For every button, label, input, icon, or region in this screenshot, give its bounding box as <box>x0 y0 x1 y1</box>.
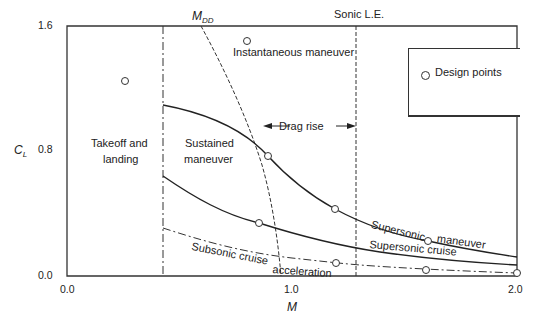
drag-rise-label: Drag rise <box>279 120 324 132</box>
mdd-label: MDD <box>192 9 214 25</box>
design-point-cruise <box>256 220 263 227</box>
mdd-curve <box>201 26 281 276</box>
y-tick-1.6: 1.6 <box>38 19 53 31</box>
design-point-sustained-1 <box>265 153 272 160</box>
sonic-le-label: Sonic L.E. <box>334 8 384 20</box>
instantaneous-maneuver-label: Instantaneous maneuver <box>233 46 354 58</box>
legend: Design points <box>408 48 520 117</box>
drag-rise-right-arrow-icon <box>347 123 356 129</box>
x-axis-title: M <box>287 300 297 314</box>
x-tick-1.0: 1.0 <box>284 283 299 295</box>
x-tick-2.0: 2.0 <box>508 283 523 295</box>
y-tick-0.0: 0.0 <box>38 269 53 281</box>
y-tick-0.8: 0.8 <box>38 143 53 155</box>
x-tick-0.0: 0.0 <box>60 283 75 295</box>
design-point-takeoff <box>122 78 129 85</box>
legend-design-points: Design points <box>435 66 502 78</box>
drag-rise-left-arrow-icon <box>263 123 272 129</box>
takeoff-label-2: landing <box>103 153 138 165</box>
design-point-accel-1 <box>333 260 340 267</box>
design-point-accel-2 <box>423 267 430 274</box>
design-point-marker-icon <box>421 71 430 80</box>
maneuver-curve <box>163 105 517 257</box>
takeoff-label-1: Takeoff and <box>91 137 148 149</box>
sustained-label-1: Sustained <box>185 137 234 149</box>
y-axis-title: CL <box>14 143 27 159</box>
design-point-accel-3 <box>514 270 521 277</box>
design-point-sustained-2 <box>332 206 339 213</box>
design-point-instantaneous <box>244 38 251 45</box>
sustained-label-2: maneuver <box>184 153 233 165</box>
